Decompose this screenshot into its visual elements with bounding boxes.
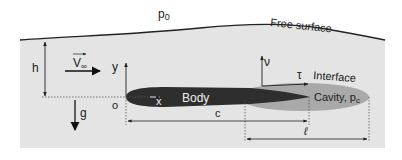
depth-label: h — [32, 61, 39, 75]
origin-label: o — [112, 99, 118, 111]
cavity-label: Cavity, pc — [314, 91, 360, 105]
normal-label: ν — [264, 55, 270, 69]
y-axis-label: y — [112, 60, 118, 74]
chord-label: c — [215, 107, 221, 119]
ambient-pressure-label: p0 — [158, 7, 170, 22]
body-label: Body — [182, 91, 209, 105]
gravity-label: g — [80, 106, 87, 120]
cavity-length-label: ℓ — [303, 125, 308, 137]
cavitating-hydrofoil-diagram: p0 Free surface h V∞ y x o g Body ν τ In… — [0, 0, 402, 160]
tangent-label: τ — [297, 68, 302, 82]
x-axis-label: x — [156, 95, 162, 107]
